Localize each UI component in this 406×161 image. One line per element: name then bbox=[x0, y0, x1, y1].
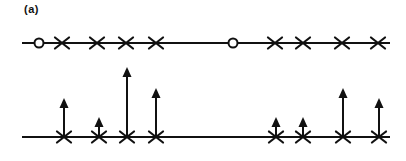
impulse-arrow-head bbox=[60, 98, 69, 108]
impulse bbox=[372, 98, 386, 143]
impulse-arrow-head bbox=[152, 88, 161, 98]
impulse bbox=[336, 88, 350, 143]
impulse-arrow-head bbox=[95, 117, 104, 127]
impulse bbox=[269, 117, 283, 143]
impulse bbox=[92, 117, 106, 143]
figure-panel: (a) bbox=[0, 0, 406, 161]
circle-marker bbox=[35, 39, 44, 48]
impulse bbox=[296, 117, 310, 143]
impulse-arrow-head bbox=[272, 117, 281, 127]
impulse-arrow-head bbox=[375, 98, 384, 108]
bottom-row bbox=[22, 67, 390, 143]
impulse-arrow-head bbox=[299, 117, 308, 127]
top-row bbox=[22, 38, 390, 49]
impulse bbox=[120, 67, 134, 143]
impulse bbox=[57, 98, 71, 143]
diagram-canvas bbox=[0, 0, 406, 161]
impulse-arrow-head bbox=[123, 67, 132, 77]
impulse bbox=[149, 88, 163, 143]
circle-marker bbox=[229, 39, 238, 48]
impulse-arrow-head bbox=[339, 88, 348, 98]
